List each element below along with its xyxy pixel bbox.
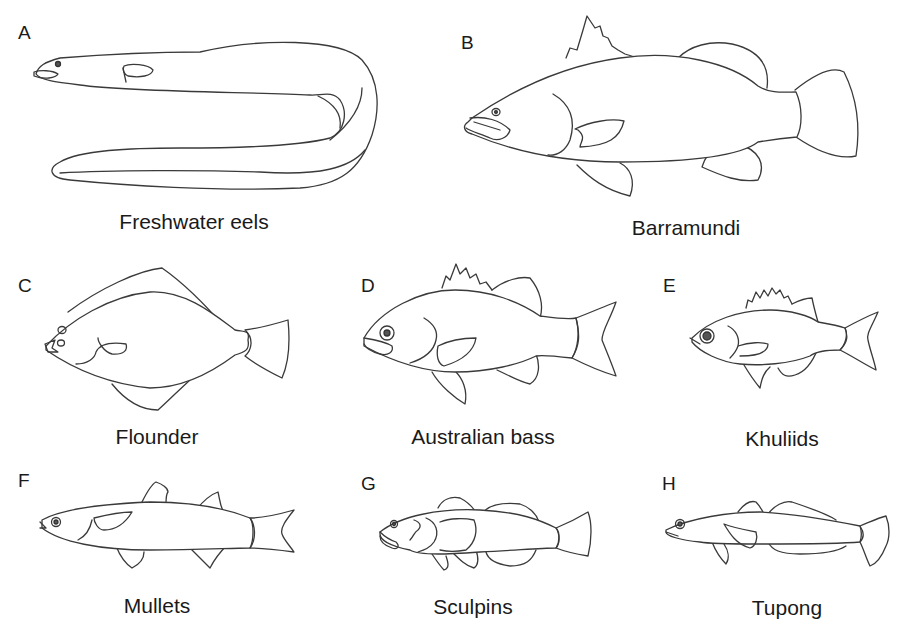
species-caption: Khuliids [745,427,819,451]
species-caption: Mullets [124,594,191,618]
tupong-illustration [600,460,897,638]
species-caption: Freshwater eels [119,210,268,234]
species-caption: Tupong [752,596,822,620]
species-caption: Sculpins [433,595,512,619]
species-caption: Australian bass [411,425,555,449]
species-caption: Barramundi [632,216,741,240]
species-caption: Flounder [116,425,199,449]
